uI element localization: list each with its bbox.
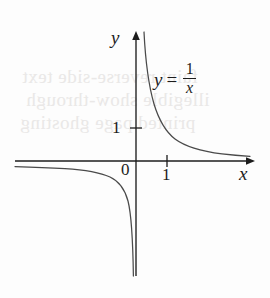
- curve-branch-negative: [15, 167, 133, 276]
- y-tick-label-1: 1: [112, 118, 121, 138]
- fraction-numerator: 1: [186, 61, 194, 78]
- y-axis-label: y: [111, 27, 119, 49]
- equation-fraction: 1 x: [183, 61, 196, 96]
- equation-relation: =: [166, 69, 177, 91]
- x-axis: [15, 157, 255, 165]
- y-axis: [132, 31, 140, 276]
- figure-container: faint reverse-side text illegible show-t…: [0, 0, 270, 298]
- equation-lhs: y: [154, 69, 162, 91]
- origin-label: 0: [121, 160, 130, 180]
- graph-plot-area: [0, 0, 270, 298]
- equation-annotation: y = 1 x: [154, 62, 196, 97]
- y-axis-arrowhead-icon: [132, 31, 140, 40]
- fraction-denominator: x: [186, 79, 193, 96]
- x-axis-label: x: [239, 163, 247, 185]
- x-tick-label-1: 1: [162, 165, 171, 185]
